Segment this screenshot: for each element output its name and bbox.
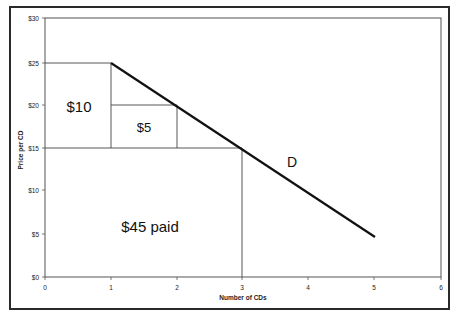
y-tick: $20: [28, 102, 39, 109]
x-tick: 6: [439, 284, 443, 291]
label-demand: D: [287, 154, 297, 170]
x-tick: 2: [175, 284, 179, 291]
x-tick: 4: [306, 284, 310, 291]
x-tick-labels: 0 1 2 3 4 5 6: [43, 284, 443, 291]
x-tick: 5: [372, 284, 376, 291]
demand-chart: $30 $25 $20 $15 $10 $5 $0 0 1 2 3 4 5 6 …: [0, 0, 462, 317]
label-area-10: $10: [66, 98, 91, 115]
y-tick: $5: [32, 231, 40, 238]
label-area-45-paid: $45 paid: [121, 218, 179, 235]
y-tick: $30: [28, 15, 39, 22]
y-tick: $25: [28, 60, 39, 67]
x-tick: 0: [43, 284, 47, 291]
x-tick: 1: [109, 284, 113, 291]
y-tick: $10: [28, 187, 39, 194]
x-axis-title: Number of CDs: [219, 294, 267, 301]
y-tick-labels: $30 $25 $20 $15 $10 $5 $0: [28, 15, 39, 281]
y-tick: $0: [32, 274, 40, 281]
surplus-rectangles: [45, 63, 242, 277]
plot-area: [45, 18, 441, 277]
y-axis-title: Price per CD: [17, 130, 25, 169]
x-tick: 3: [240, 284, 244, 291]
y-tick: $15: [28, 145, 39, 152]
label-area-5: $5: [137, 120, 151, 135]
demand-curve: [111, 63, 375, 237]
